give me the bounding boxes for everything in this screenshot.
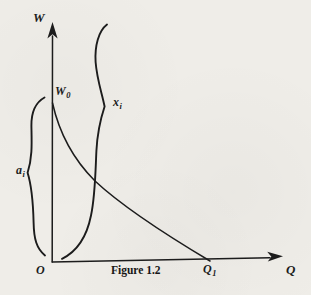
q1-label-sub: 1: [212, 268, 216, 278]
x-axis-line: [52, 258, 270, 262]
diagram-canvas: [0, 0, 311, 295]
ai-label: ai: [16, 164, 25, 176]
xi-brace: [62, 25, 107, 259]
w0-label: W0: [55, 85, 70, 97]
wq-curve: [53, 103, 211, 261]
xi-label-sub: i: [120, 101, 122, 111]
w-axis-label: W: [33, 11, 45, 24]
ai-label-base: a: [16, 163, 22, 177]
x-axis-arrowhead-icon: [267, 252, 283, 262]
q1-label: Q1: [203, 263, 216, 275]
figure-1-2: W W0 xi ai O Q1 Q Figure 1.2: [0, 0, 311, 295]
xi-label-base: x: [113, 95, 119, 109]
figure-caption: Figure 1.2: [111, 265, 161, 277]
xi-label: xi: [113, 96, 122, 108]
q1-label-base: Q: [203, 262, 212, 276]
w0-label-sub: 0: [66, 90, 70, 100]
q-axis-label: Q: [286, 263, 295, 276]
ai-brace: [28, 98, 45, 256]
origin-label: O: [36, 264, 45, 276]
w0-label-base: W: [55, 84, 66, 98]
ai-label-sub: i: [23, 169, 25, 179]
